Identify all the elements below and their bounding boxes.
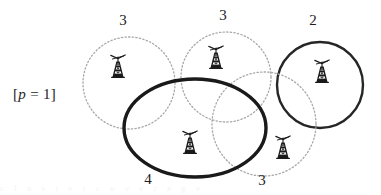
cell-tower-icon bbox=[315, 60, 329, 82]
cell-tower-icon bbox=[209, 46, 223, 68]
parameter-label: [p = 1] bbox=[13, 86, 56, 103]
region-middle-dotted-label: 3 bbox=[219, 7, 227, 23]
param-value: 1 bbox=[43, 86, 51, 102]
figure-canvas: 33234 bbox=[0, 0, 381, 195]
region-left-dotted-label: 3 bbox=[119, 12, 127, 28]
param-equals: = bbox=[26, 86, 43, 102]
region-labels-layer: 33234 bbox=[119, 7, 317, 188]
cell-tower-icon bbox=[276, 136, 290, 158]
cell-tower-icon bbox=[183, 131, 197, 153]
coverage-regions-layer bbox=[83, 32, 363, 177]
cell-tower-icon bbox=[111, 55, 125, 77]
cell-towers-layer bbox=[111, 46, 329, 158]
param-variable: p bbox=[18, 86, 26, 102]
region-bold-ellipse bbox=[124, 79, 266, 177]
region-right-solid-label: 2 bbox=[309, 12, 317, 28]
param-bracket-close: ] bbox=[51, 86, 56, 102]
region-middle-dotted bbox=[181, 32, 271, 122]
network-coverage-figure: 33234 [p = 1] c l u s t e r c o v e r a … bbox=[0, 0, 381, 195]
region-bottom-right-dotted-label: 3 bbox=[258, 172, 266, 188]
region-bold-ellipse-label: 4 bbox=[144, 171, 152, 187]
region-right-solid bbox=[277, 42, 363, 128]
